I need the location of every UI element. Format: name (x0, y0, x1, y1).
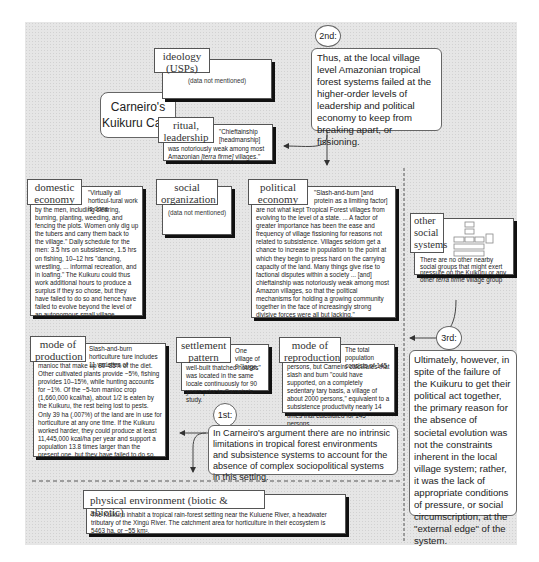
production-label-line: mode of (35, 338, 81, 350)
step-3rd-text: Ultimately, however, in spite of the fai… (414, 354, 511, 546)
political-economy-label: political economy (248, 179, 308, 205)
social-org-label-line: social (161, 181, 213, 193)
mode-of-production-label: mode of production (30, 336, 86, 362)
ideology-label: ideology (USPs) (154, 48, 210, 73)
ritual-label: ritual, leadership (158, 117, 214, 143)
ritual-text-part: "Chieftainship [headmanship] (219, 128, 260, 143)
mode-of-reproduction-label: mode of reproduction (279, 337, 341, 363)
other-social-label-line: social (414, 227, 440, 239)
other-social-text-italic: terra firme (436, 276, 465, 283)
physical-text: The Kuikuru inhabit a tropical rain-fore… (91, 511, 341, 535)
ritual-label-line: ritual, (163, 119, 209, 131)
step-2nd-bubble: Thus, at the local village level Amazoni… (311, 48, 442, 131)
domestic-text-body: by the men, including clearing, burning,… (35, 206, 139, 319)
social-organization-label: social organization (156, 179, 218, 205)
settlement-label-line: pattern (181, 351, 226, 363)
step-1st-label: 1st: (218, 410, 233, 420)
political-label-line: political (253, 181, 303, 193)
ritual-text: "Chieftainship [headmanship] (219, 128, 269, 144)
step-1st-text: In Carneiro's argument there are no intr… (213, 428, 390, 482)
reproduction-label-line: reproduction (284, 351, 336, 363)
political-economy-card: "Slash-and-burn [and protein as a limiti… (251, 186, 396, 318)
ritual-text-italic: [terra firme] (201, 153, 233, 160)
settlement-text-body: well-built thatched houses" was located … (186, 364, 265, 404)
political-label-line: economy (253, 193, 303, 205)
step-3rd-label: 3rd: (441, 333, 457, 343)
production-text-body: manioc that make up 80–85% of the diet. … (38, 362, 162, 459)
step-1st-bubble: In Carneiro's argument there are no intr… (208, 425, 398, 475)
step-2nd-label: 2nd: (319, 31, 337, 41)
ritual-label-line: leadership (163, 131, 209, 143)
social-groups-icon (450, 221, 495, 258)
domestic-economy-card: "Virtually all horticul-tural work is do… (30, 186, 143, 316)
ideology-label-line: ideology (159, 50, 205, 62)
other-social-text-part: village group (465, 276, 502, 283)
production-label-line: production (35, 350, 81, 362)
reproduction-text-body: persons, but Carneiro calculates that sl… (287, 363, 391, 428)
ideology-label-line: (USPs) (159, 62, 205, 74)
ideology-text: (data not mentioned) (163, 77, 271, 85)
domestic-label-line: domestic (32, 181, 77, 193)
domestic-label-line: economy (32, 193, 77, 205)
settlement-label-line: settlement (181, 339, 226, 351)
ritual-text-cont: was notoriously weak among most Amazonia… (168, 145, 269, 161)
reproduction-label-line: mode of (284, 339, 336, 351)
domestic-economy-label: domestic economy (27, 179, 82, 205)
political-text-head: "Slash-and-burn [and protein as a limiti… (314, 189, 392, 205)
other-social-systems-label: other social systems (410, 213, 444, 253)
settlement-pattern-label: settlement pattern (176, 337, 231, 363)
other-social-label-line: other (414, 215, 440, 227)
political-text-body: are not what kept Tropical Forest villag… (256, 206, 392, 319)
step-2nd-marker: 2nd: (315, 25, 341, 47)
other-social-label-line: systems (414, 239, 440, 251)
title-line-1: Carneiro's (101, 99, 175, 115)
physical-environment-label: physical environment (biotic & abiotic) (83, 490, 265, 509)
social-org-label-line: organization (161, 193, 213, 205)
social-org-text: (data not mentioned) (163, 209, 231, 217)
other-social-text: There are no other nearby social groups … (420, 257, 510, 283)
step-3rd-bubble: Ultimately, however, in spite of the fai… (409, 350, 517, 516)
step-1st-marker: 1st: (213, 403, 237, 427)
step-3rd-marker: 3rd: (436, 326, 462, 350)
ritual-text-part: villages." (233, 153, 260, 160)
